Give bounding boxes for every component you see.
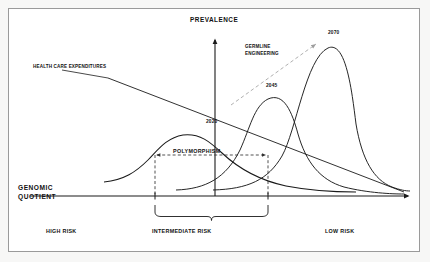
- y-axis-arrowhead: [213, 39, 218, 45]
- year-label-2020: 2020: [206, 119, 217, 124]
- healthcare-leader: [62, 70, 108, 78]
- curve-2045: [176, 98, 404, 194]
- risk-band-high: HIGH RISK: [46, 228, 77, 234]
- healthcare-line: [108, 78, 404, 192]
- diagram-canvas: [0, 0, 430, 262]
- risk-band-low: LOW RISK: [325, 228, 354, 234]
- figure-page: PREVALENCE GENOMIC QUOTIENT HEALTH CARE …: [0, 0, 430, 262]
- healthcare-expenditures-label: HEALTH CARE EXPENDITURES: [33, 64, 106, 69]
- polymorphism-label: POLYMORPHISM: [173, 148, 220, 154]
- risk-band-intermediate: INTERMEDIATE RISK: [152, 228, 212, 234]
- curve-2070: [213, 47, 410, 191]
- year-label-2070: 2070: [328, 30, 339, 35]
- curve-2020: [104, 135, 356, 192]
- x-axis-title-line2: QUOTIENT: [18, 192, 56, 202]
- germline-engineering-label-line2: ENGINEERING: [245, 51, 279, 56]
- intermediate-risk-brace: [155, 205, 268, 221]
- year-label-2045: 2045: [266, 83, 277, 88]
- x-axis-arrowhead: [404, 194, 410, 199]
- y-axis-title: PREVALENCE: [190, 16, 238, 23]
- germline-engineering-label-line1: GERMLINE: [245, 44, 270, 49]
